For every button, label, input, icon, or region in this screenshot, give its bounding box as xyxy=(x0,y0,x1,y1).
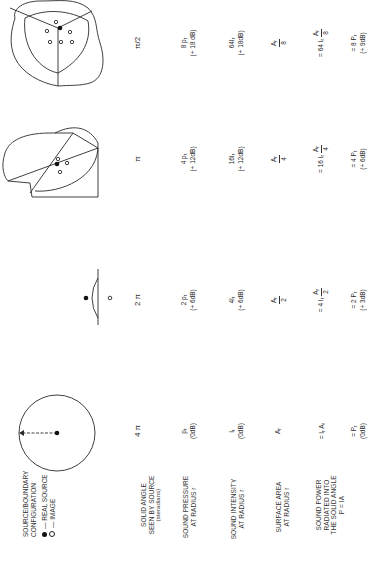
intensity-one-boundary: 4Ir (+ 6dB) xyxy=(228,289,245,311)
row-label-sound-pressure: SOUND PRESSURE AT RADIUS r xyxy=(182,476,197,538)
row-label-sound-intensity: SOUND INTENSITY AT RADIUS r xyxy=(230,479,245,540)
legend-title: SOURCE/BOUNDARY xyxy=(22,471,30,537)
area-two-boundaries: Ar4 xyxy=(270,155,288,163)
row-label-sound-power: SOUND POWER RADIATED INTO THE SOLID ANGL… xyxy=(315,475,345,534)
power-ratio-two-boundaries: = 4 Pr (+ 6dB) xyxy=(350,148,367,170)
legend-real-source: — REAL SOURCE xyxy=(41,474,49,529)
legend-title-2: CONFIGURATION xyxy=(30,471,38,537)
solid-angle-three-boundaries: π/2 xyxy=(134,37,142,49)
pressure-free-field: pr (0dB) xyxy=(180,423,197,439)
power-three-boundaries: = 64 Ir Ar8 xyxy=(312,29,330,57)
configuration-diagrams xyxy=(0,0,130,573)
image-source-icon xyxy=(49,531,55,537)
area-three-boundaries: Ar8 xyxy=(270,39,288,47)
solid-angle-free-field: 4 π xyxy=(134,425,142,437)
power-ratio-one-boundary: = 2 Pr (+ 3dB) xyxy=(350,289,367,311)
intensity-two-boundaries: 16Ir (+ 12dB) xyxy=(228,146,245,171)
solid-angle-one-boundary: 2 π xyxy=(134,294,142,306)
intensity-free-field: Ir (0dB) xyxy=(228,423,245,439)
power-free-field: = Ir Ar xyxy=(318,423,327,440)
half-space-diagram xyxy=(84,269,112,325)
area-free-field: Ar xyxy=(274,428,283,434)
power-ratio-free-field: = Pr (0dB) xyxy=(350,423,367,439)
pressure-two-boundaries: 4 pr (+ 12dB) xyxy=(180,146,197,171)
pressure-three-boundaries: 8 pr (+ 18 dB) xyxy=(180,30,197,57)
intensity-three-boundaries: 64Ir (+ 18dB) xyxy=(228,30,245,55)
power-two-boundaries: = 16 Ir Ar4 xyxy=(312,145,330,173)
real-source-icon xyxy=(42,532,47,537)
power-one-boundary: = 4 Ir Ar2 xyxy=(312,288,330,312)
area-one-boundary: Ar2 xyxy=(270,296,288,304)
solid-angle-two-boundaries: π xyxy=(134,156,142,162)
row-label-surface-area: SURFACE AREA AT RADIUS r xyxy=(275,481,290,532)
two-boundaries-diagram xyxy=(3,128,98,197)
row-label-solid-angle: SOLID ANGLE SEEN BY SOURCE (steradians) xyxy=(140,475,163,534)
source-boundary-table: SOURCE/BOUNDARY CONFIGURATION — REAL SOU… xyxy=(0,0,381,573)
pressure-one-boundary: 2 pr (+ 6dB) xyxy=(180,289,197,311)
free-field-diagram xyxy=(19,395,95,471)
legend: SOURCE/BOUNDARY CONFIGURATION — REAL SOU… xyxy=(22,471,56,537)
legend-image: — IMAGE xyxy=(49,499,57,528)
power-ratio-three-boundaries: = 8 Pr (+ 9dB) xyxy=(350,32,367,54)
three-boundaries-diagram xyxy=(10,1,103,86)
